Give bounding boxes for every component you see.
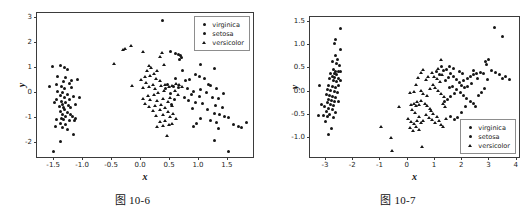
data-point-versicolor bbox=[166, 110, 170, 113]
y-axis-tick-label: 3 bbox=[28, 14, 32, 21]
data-point-setosa bbox=[336, 58, 339, 61]
y-axis-tick bbox=[307, 137, 310, 138]
data-point-setosa bbox=[330, 127, 333, 130]
data-point-virginica bbox=[455, 88, 458, 91]
figure-10-7: x y virginica setosa versicolor -3-2-101… bbox=[265, 0, 531, 216]
data-point-virginica bbox=[232, 123, 235, 126]
data-point-virginica bbox=[169, 92, 172, 95]
data-point-setosa bbox=[64, 115, 67, 118]
data-point-setosa bbox=[331, 85, 334, 88]
data-point-versicolor bbox=[158, 120, 162, 123]
data-point-versicolor bbox=[419, 89, 423, 92]
data-point-virginica bbox=[205, 91, 208, 94]
data-point-virginica bbox=[183, 96, 186, 99]
data-point-setosa bbox=[327, 107, 330, 110]
data-point-virginica bbox=[477, 94, 480, 97]
x-axis-tick bbox=[488, 157, 489, 160]
data-point-versicolor bbox=[160, 51, 164, 54]
data-point-setosa bbox=[56, 75, 59, 78]
data-point-versicolor bbox=[153, 104, 157, 107]
data-point-virginica bbox=[462, 79, 465, 82]
data-point-virginica bbox=[217, 97, 220, 100]
data-point-virginica bbox=[483, 87, 486, 90]
data-point-virginica bbox=[440, 65, 443, 68]
y-axis-tick-label: 1.5 bbox=[294, 17, 305, 24]
data-point-setosa bbox=[64, 76, 67, 79]
data-point-virginica bbox=[453, 118, 456, 121]
data-point-versicolor bbox=[139, 78, 143, 81]
data-point-virginica bbox=[195, 122, 198, 125]
data-point-versicolor bbox=[168, 96, 172, 99]
data-point-virginica bbox=[227, 116, 230, 119]
data-point-versicolor bbox=[162, 63, 166, 66]
data-point-virginica bbox=[487, 58, 490, 61]
data-point-virginica bbox=[446, 98, 449, 101]
data-point-virginica bbox=[472, 73, 475, 76]
scatter-plot-10-7: x y virginica setosa versicolor -3-2-101… bbox=[309, 16, 520, 158]
data-point-versicolor bbox=[148, 74, 152, 77]
x-axis-tick bbox=[325, 157, 326, 160]
data-point-setosa bbox=[334, 111, 337, 114]
dot-marker-icon bbox=[199, 32, 209, 35]
data-point-virginica bbox=[447, 76, 450, 79]
y-axis-tick-label: 2 bbox=[28, 39, 32, 46]
data-point-virginica bbox=[460, 84, 463, 87]
y-axis-tick-label: -2 bbox=[25, 138, 32, 145]
data-point-virginica bbox=[194, 73, 197, 76]
data-point-virginica bbox=[217, 127, 220, 130]
data-point-setosa bbox=[62, 118, 65, 121]
data-point-versicolor bbox=[389, 136, 393, 139]
data-point-setosa bbox=[339, 48, 342, 51]
data-point-versicolor bbox=[438, 80, 442, 83]
data-point-virginica bbox=[213, 112, 216, 115]
data-point-versicolor bbox=[174, 117, 178, 120]
y-axis-tick-label: 0.5 bbox=[294, 64, 305, 71]
legend-item: virginica bbox=[199, 20, 244, 29]
figure-caption: 图 10-7 bbox=[265, 191, 531, 207]
data-point-setosa bbox=[48, 85, 51, 88]
x-axis-title: x bbox=[143, 171, 148, 182]
data-point-setosa bbox=[66, 128, 69, 131]
data-point-setosa bbox=[334, 96, 337, 99]
data-point-setosa bbox=[52, 150, 55, 153]
data-point-virginica bbox=[466, 85, 469, 88]
data-point-versicolor bbox=[149, 66, 153, 69]
data-point-setosa bbox=[339, 27, 342, 30]
data-point-setosa bbox=[54, 125, 57, 128]
data-point-versicolor bbox=[379, 125, 383, 128]
data-point-versicolor bbox=[163, 106, 167, 109]
data-point-virginica bbox=[215, 87, 218, 90]
data-point-setosa bbox=[58, 105, 61, 108]
data-point-virginica bbox=[464, 105, 467, 108]
data-point-versicolor bbox=[153, 87, 157, 90]
data-point-virginica bbox=[493, 26, 496, 29]
data-point-versicolor bbox=[428, 87, 432, 90]
data-point-versicolor bbox=[161, 97, 165, 100]
data-point-virginica bbox=[169, 50, 172, 53]
data-point-virginica bbox=[192, 125, 195, 128]
data-point-versicolor bbox=[152, 93, 156, 96]
data-point-virginica bbox=[211, 96, 214, 99]
legend-item: versicolor bbox=[199, 38, 244, 47]
y-axis-tick-label: 1 bbox=[28, 64, 32, 71]
x-axis-tick-label: -1.5 bbox=[46, 162, 60, 169]
data-point-virginica bbox=[449, 115, 452, 118]
data-point-setosa bbox=[63, 87, 66, 90]
data-point-setosa bbox=[332, 104, 335, 107]
data-point-virginica bbox=[206, 108, 209, 111]
y-axis-tick bbox=[307, 21, 310, 22]
data-point-virginica bbox=[223, 115, 226, 118]
data-point-virginica bbox=[444, 79, 447, 82]
data-point-virginica bbox=[466, 77, 469, 80]
data-point-virginica bbox=[209, 84, 212, 87]
x-axis-tick bbox=[198, 157, 199, 160]
data-point-setosa bbox=[70, 79, 73, 82]
data-point-versicolor bbox=[159, 84, 163, 87]
x-axis-tick-label: -0.5 bbox=[104, 162, 118, 169]
data-point-versicolor bbox=[444, 117, 448, 120]
data-point-virginica bbox=[161, 19, 164, 22]
legend-label: versicolor bbox=[478, 142, 510, 150]
data-point-virginica bbox=[174, 77, 177, 80]
data-point-versicolor bbox=[441, 125, 445, 128]
legend-item: versicolor bbox=[465, 141, 510, 150]
